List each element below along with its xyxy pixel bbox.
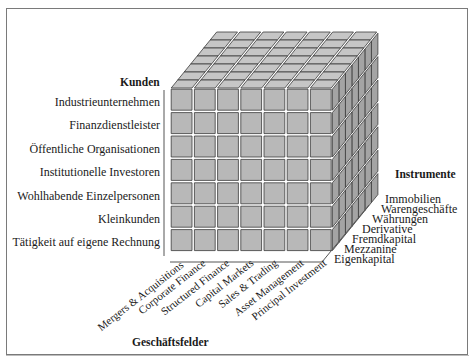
cube-cell [287,159,308,180]
cube-cell [184,64,211,72]
kunden-label: Industrieunternehmen [12,94,160,117]
cube-cell [287,183,308,204]
cube-cell [218,89,239,110]
cube-cell [273,40,300,48]
cube-cell [294,72,321,80]
cube-cell [336,48,363,56]
cube-cell [194,230,215,251]
cube-cell [241,230,262,251]
cube-cell [178,72,205,80]
cube-cell [171,113,192,134]
cube-cell [218,159,239,180]
cube-cell [201,72,228,80]
cube-cell [214,56,241,64]
cube-cell [264,183,285,204]
cube-cell [330,56,357,64]
cube-cell [254,64,281,72]
cube-cell [241,136,262,157]
cube-cell [310,89,331,110]
cube-cell [277,64,304,72]
cube-cell [264,136,285,157]
cube-cell [290,48,317,56]
cube-cell [287,230,308,251]
cube-cell [250,40,277,48]
kunden-label: Kleinkunden [12,211,160,234]
cube-cell [323,64,350,72]
cube-cell [194,89,215,110]
cube-cell [244,48,271,56]
cube-cell [241,206,262,227]
cube-cell [247,72,274,80]
cube-cell [171,136,192,157]
cube-cell [349,32,376,40]
kunden-label: Finanzdienstleister [12,117,160,140]
cube-cell [204,40,231,48]
cube-cell [218,230,239,251]
cube-cell [264,230,285,251]
cube-cell [224,72,251,80]
cube-cell [194,183,215,204]
cube-cell [310,80,337,88]
cube-cell [310,206,331,227]
cube-cell [310,136,331,157]
cube-cell [194,113,215,134]
cube-cell [218,80,245,88]
cube-cell [284,56,311,64]
cube-cell [220,48,247,56]
cube-cell [233,32,260,40]
cube-cell [260,56,287,64]
cube-cell [310,113,331,134]
cube-cell [171,183,192,204]
cube-cell [313,48,340,56]
instrumente-axis-title: Instrumente [395,168,456,180]
cube-cell [237,56,264,64]
kunden-axis-labels: Industrieunternehmen Finanzdienstleister… [12,94,160,258]
cube-cell [297,40,324,48]
cube-cell [264,89,285,110]
cube-cell [287,206,308,227]
cube-cell [307,56,334,64]
cube-cell [310,159,331,180]
cube-cell [191,56,218,64]
cube-cell [241,113,262,134]
cube-cell [287,136,308,157]
cube-cell [231,64,258,72]
cube-cell [287,80,314,88]
kunden-label: Wohlhabende Einzelpersonen [12,188,160,211]
cube-cell [310,230,331,251]
kunden-label: Öffentliche Organisationen [12,141,160,164]
cube-front-face [171,89,331,250]
cube-cell [310,183,331,204]
cube-cell [287,89,308,110]
kunden-label: Tätigkeit auf eigene Rechnung [12,234,160,257]
cube-cell [207,64,234,72]
cube-cell [271,72,298,80]
cube-cell [241,159,262,180]
cube-cell [171,230,192,251]
kunden-label: Institutionelle Investoren [12,164,160,187]
cube-cell [218,183,239,204]
cube-cell [197,48,224,56]
cube-cell [317,72,344,80]
cube-cell [194,159,215,180]
cube-cell [264,159,285,180]
cube-cell [194,136,215,157]
cube-cell [171,89,192,110]
cube-cell [241,80,268,88]
cube-cell [218,113,239,134]
instrumente-label: Eigenkapital [334,253,395,265]
cube-cell [227,40,254,48]
cube-cell [267,48,294,56]
cube-cell [264,80,291,88]
cube-cell [171,206,192,227]
cube-cell [264,113,285,134]
cube-cell [264,206,285,227]
cube-cell [171,80,198,88]
cube-cell [303,32,330,40]
kunden-axis-title: Kunden [120,76,160,88]
cube-cell [241,183,262,204]
cube-cell [241,89,262,110]
geschaeftsfelder-axis-title: Geschäftsfelder [132,336,209,348]
cube-cell [280,32,307,40]
cube-cell [171,159,192,180]
